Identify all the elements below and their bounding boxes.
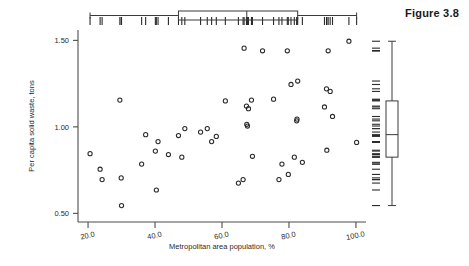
y-axis-ticks bbox=[73, 40, 78, 213]
data-point bbox=[156, 139, 160, 143]
top-marginal-rug bbox=[90, 17, 357, 25]
right-marginal-rug bbox=[372, 41, 380, 205]
data-point bbox=[330, 114, 334, 118]
data-point bbox=[166, 152, 170, 156]
data-point bbox=[355, 140, 359, 144]
data-point bbox=[180, 155, 184, 159]
y-axis-tick-labels: 0.501.001.50 bbox=[54, 36, 69, 218]
data-point bbox=[292, 155, 296, 159]
x-axis-ticks bbox=[88, 222, 356, 228]
data-point bbox=[347, 39, 351, 43]
data-point bbox=[286, 172, 290, 176]
data-point bbox=[250, 154, 254, 158]
data-point bbox=[325, 148, 329, 152]
data-point bbox=[118, 98, 122, 102]
scatter-plot-canvas: 0.501.001.50 20.040.060.080.0100.0 Metro… bbox=[0, 0, 469, 266]
data-point bbox=[100, 178, 104, 182]
x-tick-label: 100.0 bbox=[345, 229, 365, 242]
scatter-points-group bbox=[88, 39, 359, 208]
y-tick-label: 0.50 bbox=[54, 209, 69, 218]
data-point bbox=[242, 46, 246, 50]
x-tick-label: 20.0 bbox=[79, 230, 95, 242]
data-point bbox=[271, 97, 275, 101]
top-marginal-boxplot bbox=[90, 11, 357, 20]
y-tick-label: 1.50 bbox=[54, 36, 69, 45]
data-point bbox=[140, 162, 144, 166]
data-point bbox=[176, 133, 180, 137]
data-point bbox=[153, 149, 157, 153]
data-point bbox=[88, 152, 92, 156]
figure-container: Figure 3.8 0.501.001.50 20.040.060.080.0… bbox=[0, 0, 469, 266]
data-point bbox=[322, 105, 326, 109]
data-point bbox=[223, 99, 227, 103]
data-point bbox=[249, 98, 253, 102]
data-point bbox=[183, 126, 187, 130]
data-point bbox=[119, 176, 123, 180]
x-axis-title: Metropolitan area population, % bbox=[169, 242, 275, 251]
data-point bbox=[285, 49, 289, 53]
data-point bbox=[300, 160, 304, 164]
data-point bbox=[214, 134, 218, 138]
data-point bbox=[328, 89, 332, 93]
right-marginal-boxplot bbox=[386, 41, 398, 205]
data-point bbox=[289, 82, 293, 86]
data-point bbox=[296, 79, 300, 83]
data-point bbox=[154, 188, 158, 192]
data-point bbox=[236, 181, 240, 185]
data-point bbox=[198, 130, 202, 134]
x-tick-label: 80.0 bbox=[280, 230, 296, 242]
data-point bbox=[277, 178, 281, 182]
data-point bbox=[260, 49, 264, 53]
x-tick-label: 40.0 bbox=[146, 230, 162, 242]
data-point bbox=[119, 203, 123, 207]
box-iqr bbox=[386, 101, 398, 157]
data-point bbox=[326, 49, 330, 53]
data-point bbox=[280, 162, 284, 166]
y-tick-label: 1.00 bbox=[54, 123, 69, 132]
data-point bbox=[210, 139, 214, 143]
data-point bbox=[205, 126, 209, 130]
data-point bbox=[98, 167, 102, 171]
x-tick-label: 60.0 bbox=[213, 230, 229, 242]
y-axis-title: Per capita solid waste, tons bbox=[27, 80, 36, 172]
data-point bbox=[144, 133, 148, 137]
x-axis-tick-labels: 20.040.060.080.0100.0 bbox=[79, 229, 365, 242]
data-point bbox=[241, 178, 245, 182]
